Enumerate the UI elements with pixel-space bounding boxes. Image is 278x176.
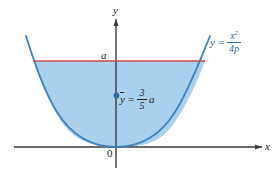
- equation-numerator-exponent: 2: [235, 29, 239, 37]
- equation-lhs: y: [210, 37, 215, 48]
- parabola-centroid-figure: y x 0 a y = x2 4p y = 3 5 a: [0, 0, 278, 176]
- centroid-label: y = 3 5 a: [120, 88, 155, 111]
- centroid-denominator: 5: [138, 101, 147, 111]
- y-axis-label: y: [113, 5, 118, 16]
- equation-numerator: x2: [228, 31, 240, 41]
- centroid-fraction: 3 5: [137, 88, 147, 111]
- x-axis-arrow: [255, 144, 262, 149]
- curve-equation-label: y = x2 4p: [210, 31, 241, 54]
- centroid-dot: [114, 93, 120, 99]
- centroid-equals: =: [127, 94, 135, 105]
- centroid-numerator: 3: [138, 88, 147, 98]
- upper-bound-value-label: a: [101, 50, 107, 61]
- equation-fraction: x2 4p: [227, 31, 241, 54]
- centroid-lhs: y: [120, 94, 125, 105]
- equation-denominator: 4p: [227, 44, 241, 54]
- centroid-factor: a: [149, 94, 155, 105]
- y-axis-arrow: [113, 19, 118, 26]
- origin-label: 0: [107, 148, 113, 159]
- equation-equals: =: [217, 37, 225, 48]
- x-axis-label: x: [265, 141, 270, 152]
